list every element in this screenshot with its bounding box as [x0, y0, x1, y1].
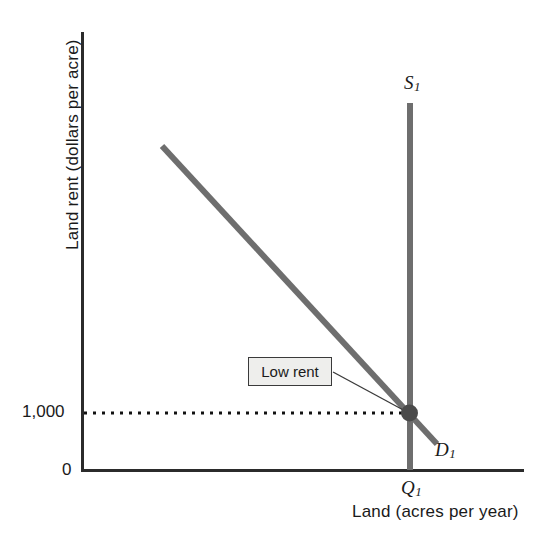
x-axis-tick-label-q1: Q1: [401, 478, 422, 498]
y-axis-tick-label-1000: 1,000: [22, 403, 65, 420]
quantity-subscript: 1: [415, 484, 422, 499]
supply-curve-subscript: 1: [414, 79, 421, 94]
quantity-letter: Q: [401, 477, 415, 498]
demand-curve-label-d1: D1: [435, 440, 456, 460]
supply-curve-label-s1: S1: [404, 73, 421, 93]
demand-curve-subscript: 1: [449, 446, 456, 461]
chart-canvas: [0, 0, 554, 547]
y-axis-tick-label-zero: 0: [62, 461, 71, 478]
demand-curve-letter: D: [435, 439, 449, 460]
x-axis-title: Land (acres per year): [352, 503, 519, 520]
callout-leader-line: [333, 372, 407, 412]
supply-curve-letter: S: [404, 72, 414, 93]
land-rent-supply-demand-figure: Land rent (dollars per acre) Land (acres…: [0, 0, 554, 547]
equilibrium-point-dot: [401, 405, 418, 422]
demand-curve-d1: [162, 146, 437, 444]
low-rent-callout-box: Low rent: [248, 357, 332, 386]
y-axis-title: Land rent (dollars per acre): [64, 39, 81, 250]
